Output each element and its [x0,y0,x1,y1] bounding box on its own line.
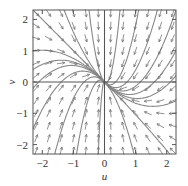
field-arrow [97,109,100,117]
x-axis-label: u [102,170,108,182]
field-arrow [109,47,112,55]
field-arrow [109,34,112,42]
field-arrow [122,47,125,55]
field-arrow [46,85,51,91]
field-arrow [146,147,149,154]
field-arrow [146,135,150,142]
field-arrow [158,73,163,79]
field-arrow [71,48,77,54]
trajectory-curve [105,0,123,83]
field-arrow [97,22,100,30]
field-arrow [170,136,177,140]
field-arrow [109,122,112,130]
field-arrow [109,22,112,30]
field-arrow [59,85,64,91]
axis-ticks: −2−1012−2−1012 [16,10,176,169]
y-tick-label: 0 [23,76,29,88]
field-arrow [72,22,75,29]
field-arrow [134,122,138,129]
field-arrow [85,134,88,142]
field-arrow [59,97,63,104]
field-arrow [72,134,75,142]
field-arrow [109,109,112,117]
field-arrow [97,47,100,55]
field-arrow [85,122,88,130]
field-arrow [170,148,176,154]
trajectory-curve [105,82,188,176]
field-arrow [32,61,39,64]
field-arrow [158,148,163,155]
field-arrow [132,99,140,102]
field-arrow [144,100,152,103]
y-axis-label: v [5,79,17,84]
field-arrow [33,24,40,28]
field-arrow [72,110,75,118]
field-arrow [97,34,100,42]
field-arrow [33,10,39,16]
field-arrow [122,22,125,30]
field-arrow [33,73,39,78]
field-arrow [158,60,162,67]
field-arrow [85,34,88,42]
field-arrow [57,62,65,65]
field-arrow [46,10,51,17]
field-arrow [59,110,62,117]
y-tick-label: 2 [23,13,29,25]
field-arrow [170,86,176,91]
field-arrow [122,34,125,42]
field-arrow [59,22,63,29]
y-tick-label: −2 [16,139,28,151]
field-arrow [57,49,64,52]
field-arrow [82,74,90,77]
field-arrow [71,85,76,92]
field-arrow [47,135,50,143]
field-arrow [109,134,112,142]
field-arrow [144,112,151,115]
field-arrow [97,97,100,105]
field-arrow [134,47,137,55]
y-tick-label: −1 [16,107,28,119]
trajectory-curve [105,0,162,88]
field-arrow [109,59,112,67]
field-arrow [58,35,64,41]
field-arrow [58,73,65,78]
field-arrow [146,47,149,54]
field-arrow [157,124,164,128]
field-arrow [59,10,62,17]
field-arrow [134,34,137,42]
field-arrow [134,60,137,67]
field-arrow [132,86,139,90]
field-arrow [159,47,162,54]
field-arrow [47,122,50,129]
field-arrow [171,35,174,42]
field-arrow [72,122,75,130]
field-arrow [45,36,52,40]
field-arrow [171,60,175,67]
field-arrow [84,47,87,54]
field-arrow [145,86,152,91]
field-arrow [159,34,162,41]
field-arrow [146,60,150,67]
field-arrow [122,134,125,142]
x-tick-label: 2 [164,157,170,169]
phase-portrait-chart: −2−1012−2−1012 u v [0,0,188,186]
field-arrow [119,87,127,90]
x-tick-label: −1 [68,157,80,169]
field-arrow [85,22,88,30]
field-arrow [146,22,149,30]
y-tick-label: 1 [23,45,29,57]
field-arrow [159,22,162,30]
x-tick-label: 1 [133,157,139,169]
field-arrow [46,23,52,29]
x-tick-label: 0 [102,157,108,169]
field-arrow [97,84,100,92]
field-arrow [134,135,137,142]
field-arrow [84,85,88,92]
field-arrow [157,100,165,103]
field-arrow [47,110,50,117]
field-arrow [34,97,38,104]
field-arrow [156,112,164,115]
field-arrow [109,97,112,105]
field-arrow [35,135,38,142]
field-arrow [122,122,125,130]
